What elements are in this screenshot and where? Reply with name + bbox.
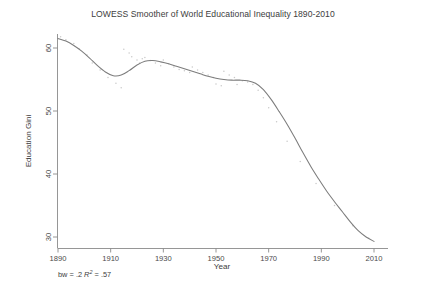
y-axis-title: Education Gini <box>24 114 33 167</box>
x-tick-label-1930: 1930 <box>155 254 172 263</box>
scatter-points <box>60 36 370 239</box>
scatter-point <box>252 84 254 86</box>
x-tick-label-1970: 1970 <box>260 254 277 263</box>
annotation-r-value: .57 <box>101 270 111 279</box>
scatter-point <box>91 62 93 64</box>
scatter-point <box>334 205 336 207</box>
scatter-point <box>173 66 175 68</box>
scatter-point <box>236 84 238 86</box>
scatter-point <box>300 161 302 163</box>
scatter-point <box>107 77 109 79</box>
scatter-point <box>142 58 144 60</box>
scatter-point <box>60 36 62 38</box>
scatter-point <box>247 81 249 83</box>
scatter-point <box>228 74 230 76</box>
scatter-point <box>155 62 157 64</box>
scatter-point <box>215 83 217 85</box>
scatter-point <box>263 97 265 99</box>
scatter-point <box>315 183 317 185</box>
scatter-point <box>192 66 194 68</box>
scatter-point <box>115 83 117 85</box>
annotation-bw-label: bw = <box>58 270 76 279</box>
annotation-r-equals: = <box>92 270 100 279</box>
scatter-point <box>276 121 278 123</box>
scatter-point <box>197 69 199 71</box>
y-axis-ticks: 30405060 <box>44 44 58 241</box>
y-tick-label-30: 30 <box>44 233 53 241</box>
scatter-point <box>128 52 130 54</box>
scatter-point <box>123 49 125 51</box>
lowess-smoother-line <box>58 39 374 242</box>
scatter-point <box>189 72 191 74</box>
chart-plot-area: 30405060 1890191019301950197019902010 Ed… <box>0 0 426 294</box>
y-tick-label-50: 50 <box>44 107 53 115</box>
scatter-point <box>207 74 209 76</box>
scatter-point <box>221 85 223 87</box>
scatter-point <box>99 69 101 71</box>
scatter-point <box>268 107 270 109</box>
chart-annotation: bw = .2 R2 = .57 <box>58 269 111 279</box>
scatter-point <box>257 89 259 91</box>
x-tick-label-1890: 1890 <box>50 254 67 263</box>
scatter-point <box>131 56 133 58</box>
scatter-point <box>286 140 288 142</box>
scatter-point <box>202 72 204 74</box>
scatter-point <box>73 43 75 45</box>
scatter-point <box>144 57 146 59</box>
y-tick-label-40: 40 <box>44 170 53 178</box>
scatter-point <box>120 87 122 89</box>
scatter-point <box>178 69 180 71</box>
x-axis-ticks: 1890191019301950197019902010 <box>50 249 383 263</box>
x-tick-label-1910: 1910 <box>102 254 119 263</box>
scatter-point <box>160 65 162 67</box>
scatter-point <box>163 59 165 61</box>
x-tick-label-1990: 1990 <box>313 254 330 263</box>
scatter-point <box>184 70 186 72</box>
chart-figure: LOWESS Smoother of World Educational Ine… <box>0 0 426 294</box>
x-axis-title: Year <box>214 262 231 271</box>
scatter-point <box>223 71 225 73</box>
x-tick-label-2010: 2010 <box>366 254 383 263</box>
scatter-point <box>136 59 138 61</box>
scatter-point <box>234 77 236 79</box>
y-tick-label-60: 60 <box>44 44 53 52</box>
